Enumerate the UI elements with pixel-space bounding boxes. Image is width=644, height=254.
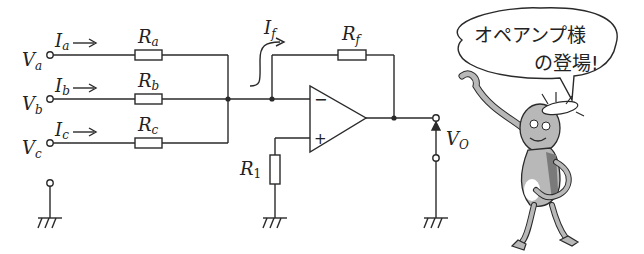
- resistor-rb: [135, 94, 162, 104]
- ground-output: [424, 155, 448, 228]
- speech-line-1: オペアンプ様: [474, 24, 586, 46]
- label-ia: Ia: [54, 30, 69, 53]
- label-rb: Rb: [137, 70, 159, 93]
- label-vb: Vb: [22, 93, 43, 117]
- label-ic: Ic: [54, 119, 69, 142]
- current-arrows: [73, 39, 96, 136]
- terminal-vc: [47, 140, 53, 146]
- label-vc: Vc: [22, 137, 42, 161]
- junction-dot-2: [269, 96, 274, 101]
- junction-dot-output: [391, 115, 396, 120]
- junction-dot-1: [225, 96, 230, 101]
- label-if: If: [263, 17, 278, 41]
- label-ra: Ra: [137, 26, 159, 49]
- resistor-rc: [135, 138, 162, 148]
- terminal-vo-plus: [433, 115, 439, 121]
- terminal-vb: [47, 96, 53, 102]
- resistor-ra: [135, 50, 162, 60]
- ground-r1: [263, 218, 287, 228]
- label-ib: Ib: [54, 75, 70, 98]
- opamp-minus: −: [314, 90, 327, 109]
- bias-branch: [270, 138, 310, 218]
- mascot-illustration: オペアンプ様 の登場!: [457, 8, 617, 250]
- label-va: Va: [22, 49, 42, 73]
- resistor-r1: [270, 155, 280, 184]
- label-vo: VO: [446, 128, 469, 152]
- input-branch-c: [47, 138, 228, 148]
- speech-line-2: の登場!: [534, 52, 599, 74]
- label-r1: R1: [239, 158, 261, 181]
- if-current-arrow: [250, 42, 280, 86]
- ground-left: [38, 180, 62, 228]
- label-rc: Rc: [137, 114, 159, 137]
- resistor-rf: [338, 50, 366, 60]
- label-rf: Rf: [341, 23, 363, 47]
- terminal-va: [47, 52, 53, 58]
- circuit-diagram: Va Vb Vc Ia Ib Ic Ra Rb Rc If Rf R1 VO −…: [0, 0, 644, 254]
- opamp-plus: +: [314, 130, 327, 148]
- input-branch-a: [47, 50, 228, 60]
